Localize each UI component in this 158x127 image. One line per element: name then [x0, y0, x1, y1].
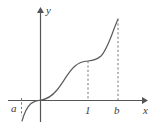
y-axis-label: y — [45, 4, 51, 16]
y-axis — [37, 7, 44, 122]
graph-canvas: y x a 1 b — [0, 0, 158, 127]
y-axis-arrowhead — [37, 7, 44, 13]
x-axis-label: x — [142, 104, 148, 116]
tick-label-b: b — [114, 104, 120, 116]
tick-label-a: a — [11, 102, 17, 114]
math-figure: y x a 1 b — [0, 0, 158, 127]
tick-label-one: 1 — [85, 104, 91, 116]
x-axis — [8, 97, 148, 104]
function-curve — [22, 19, 118, 121]
x-axis-arrowhead — [142, 97, 148, 104]
